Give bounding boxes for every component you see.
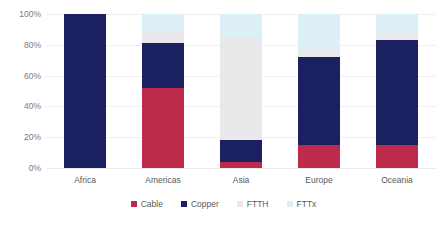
bar-group-oceania bbox=[376, 14, 418, 168]
bar-segment-cable bbox=[142, 88, 184, 168]
bar-segment-copper bbox=[142, 43, 184, 88]
bar-segment-fttx bbox=[298, 14, 340, 49]
legend-label: FTTx bbox=[297, 200, 317, 209]
bar-segment-cable bbox=[376, 145, 418, 168]
legend-item-ftth[interactable]: FTTH bbox=[237, 200, 269, 209]
legend-label: Cable bbox=[141, 200, 163, 209]
bar-group-europe bbox=[298, 14, 340, 168]
bar-segment-fttx bbox=[376, 14, 418, 32]
bar-segment-ftth bbox=[298, 49, 340, 57]
stacked-bar bbox=[220, 14, 262, 168]
x-axis-label-americas: Americas bbox=[124, 176, 202, 185]
y-axis-tick-60: 60% bbox=[1, 71, 41, 80]
x-axis-label-oceania: Oceania bbox=[358, 176, 436, 185]
bar-segment-cable bbox=[220, 162, 262, 168]
legend-swatch-fttx-icon bbox=[287, 201, 293, 207]
bar-segment-ftth bbox=[220, 37, 262, 140]
legend-label: Copper bbox=[191, 200, 219, 209]
bar-segment-cable bbox=[298, 145, 340, 168]
bar-segment-copper bbox=[64, 14, 106, 168]
y-axis-tick-100: 100% bbox=[1, 10, 41, 19]
legend-swatch-copper-icon bbox=[181, 201, 187, 207]
plot-area bbox=[46, 14, 436, 168]
x-axis-label-africa: Africa bbox=[46, 176, 124, 185]
y-axis-tick-20: 20% bbox=[1, 133, 41, 142]
bar-segment-fttx bbox=[142, 14, 184, 31]
bar-segment-ftth bbox=[376, 33, 418, 41]
legend-item-fttx[interactable]: FTTx bbox=[287, 200, 317, 209]
legend-label: FTTH bbox=[247, 200, 269, 209]
y-axis-tick-80: 80% bbox=[1, 41, 41, 50]
bar-segment-fttx bbox=[220, 14, 262, 37]
bar-segment-copper bbox=[376, 40, 418, 145]
legend-swatch-ftth-icon bbox=[237, 201, 243, 207]
bar-segment-copper bbox=[220, 140, 262, 162]
legend-item-copper[interactable]: Copper bbox=[181, 200, 219, 209]
stacked-bar bbox=[298, 14, 340, 168]
bar-group-americas bbox=[142, 14, 184, 168]
gridline bbox=[46, 168, 436, 169]
x-axis-label-europe: Europe bbox=[280, 176, 358, 185]
stacked-bar bbox=[142, 14, 184, 168]
chart-page: 100%80%60%40%20%0% AfricaAmericasAsiaEur… bbox=[0, 0, 447, 226]
bar-group-africa bbox=[64, 14, 106, 168]
bar-segment-ftth bbox=[142, 31, 184, 43]
y-axis-tick-40: 40% bbox=[1, 102, 41, 111]
chart-legend: CableCopperFTTHFTTx bbox=[0, 200, 447, 209]
legend-swatch-cable-icon bbox=[131, 201, 137, 207]
legend-item-cable[interactable]: Cable bbox=[131, 200, 163, 209]
y-axis-tick-0: 0% bbox=[1, 164, 41, 173]
stacked-bar bbox=[376, 14, 418, 168]
bar-group-asia bbox=[220, 14, 262, 168]
stacked-bar bbox=[64, 14, 106, 168]
x-axis-label-asia: Asia bbox=[202, 176, 280, 185]
bar-segment-copper bbox=[298, 57, 340, 145]
